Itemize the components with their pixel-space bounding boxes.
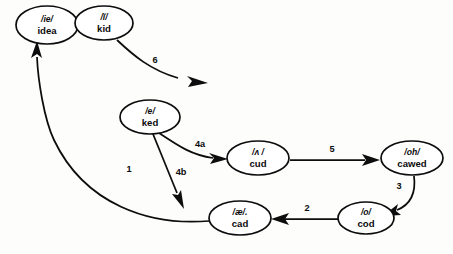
diagram-canvas: 1 2 3 4a 4b 5 <box>0 0 453 254</box>
edge-5-group: 5 <box>290 144 380 166</box>
edge-2-group: 2 <box>271 203 338 225</box>
node-ked-word: ked <box>142 117 159 128</box>
vowel-shift-diagram: 1 2 3 4a 4b 5 <box>0 0 453 254</box>
edge-4b-label: 4b <box>176 167 187 177</box>
node-idea-word: idea <box>37 25 57 36</box>
node-idea-ipa: /ie/ <box>40 14 55 24</box>
edge-6-arrowhead <box>187 76 208 87</box>
edge-5-label: 5 <box>329 144 334 154</box>
node-kid[interactable]: /ĭ/ kid <box>75 6 133 40</box>
node-cawed-word: cawed <box>397 158 426 169</box>
node-cod-ipa: /o/ <box>360 207 373 217</box>
edge-2-label: 2 <box>304 203 309 213</box>
node-cawed[interactable]: /oh/ cawed <box>381 141 443 175</box>
edge-6-path <box>117 40 178 78</box>
node-ked[interactable]: /e/ ked <box>120 100 180 134</box>
edge-4a-label: 4a <box>195 139 206 149</box>
edge-1-path <box>37 57 209 222</box>
edge-1-label: 1 <box>126 164 131 174</box>
edge-6-label: 6 <box>152 55 157 65</box>
edge-1-group: 1 <box>31 41 209 222</box>
node-cud-word: cud <box>249 158 266 169</box>
node-idea[interactable]: /ie/ idea <box>16 6 78 44</box>
edge-6-group: 6 <box>117 40 208 87</box>
node-cawed-ipa: /oh/ <box>403 147 421 157</box>
node-cad-word: cad <box>232 218 249 229</box>
edge-4a-group: 4a <box>159 133 228 164</box>
edge-4b-group: 4b <box>153 134 187 209</box>
node-kid-word: kid <box>97 23 111 34</box>
edge-3-label: 3 <box>396 181 401 191</box>
node-cud-ipa: /ʌ / <box>251 147 266 157</box>
node-cod[interactable]: /o/ cod <box>338 202 394 234</box>
node-cad-ipa: /æ/. <box>232 207 248 217</box>
node-ked-ipa: /e/ <box>144 106 156 116</box>
node-cod-word: cod <box>357 218 374 229</box>
edge-4b-arrowhead <box>172 190 184 209</box>
node-cud[interactable]: /ʌ / cud <box>227 141 289 175</box>
node-cad[interactable]: /æ/. cad <box>209 201 271 235</box>
